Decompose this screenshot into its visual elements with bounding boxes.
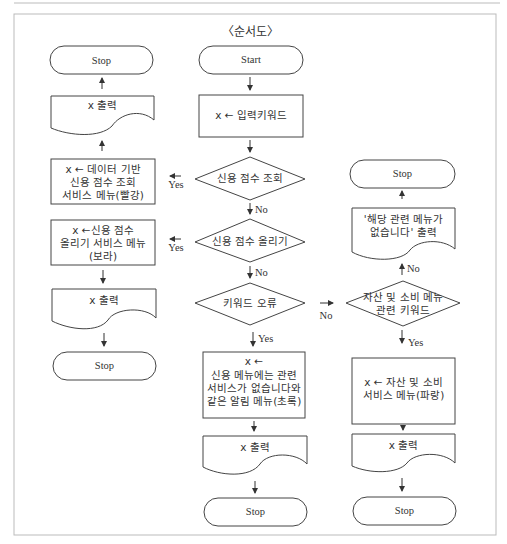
- process-green-x-label: x ←: [203, 355, 305, 368]
- edge-no-2: No: [255, 266, 275, 279]
- process-blue-label: x ← 자산 및 소비 서비스 메뉴(파랑): [352, 376, 455, 402]
- output-none-label: '해당 관련 메뉴가 없습니다' 출력: [352, 213, 455, 239]
- process-green-label: 신용 메뉴에는 관련 서비스가 없습니다와 같은 알림 메뉴(초록): [203, 369, 305, 408]
- edge-no-3: No: [316, 309, 336, 322]
- edge-no-4: No: [407, 262, 427, 275]
- decision-credit-check-label: 신용 점수 조회: [195, 172, 305, 185]
- stop-right-bottom-label: Stop: [353, 504, 456, 517]
- process-input-label: x ← 입력키워드: [199, 109, 303, 122]
- process-red-label: x ← 데이터 기반 신용 점수 조회 서비스 메뉴(빨강): [51, 163, 155, 202]
- output-mid-label: x 출력: [203, 441, 307, 454]
- edge-yes-3: Yes: [258, 332, 282, 345]
- output-left-bottom-label: x 출력: [52, 294, 156, 307]
- edge-no-1: No: [255, 203, 275, 216]
- diagram-title: 〈순서도〉: [200, 22, 300, 39]
- flowchart-shapes: [0, 0, 507, 544]
- stop-right-top-label: Stop: [350, 167, 455, 180]
- output-right-label: x 출력: [352, 439, 455, 452]
- decision-asset-label: 자산 및 소비 메뉴 관련 키워드: [346, 291, 460, 317]
- process-purple-label: x ←신용 점수 올리기 서비스 메뉴 (보라): [51, 224, 155, 263]
- stop-mid-label: Stop: [204, 505, 307, 518]
- decision-credit-raise-label: 신용 점수 올리기: [195, 235, 305, 248]
- edge-yes-1: Yes: [164, 178, 188, 191]
- edge-yes-4: Yes: [408, 336, 432, 349]
- flowchart: 〈순서도〉 Stop x 출력 x ← 데이터 기반 신용 점수 조회 서비스 …: [0, 0, 507, 544]
- output-left-top-label: x 출력: [51, 99, 154, 112]
- start-label: Start: [199, 53, 303, 66]
- stop-left-top-label: Stop: [50, 54, 153, 67]
- stop-left-bottom-label: Stop: [53, 359, 156, 372]
- decision-keyword-error-label: 키워드 오류: [195, 297, 305, 310]
- edge-yes-2: Yes: [164, 241, 188, 254]
